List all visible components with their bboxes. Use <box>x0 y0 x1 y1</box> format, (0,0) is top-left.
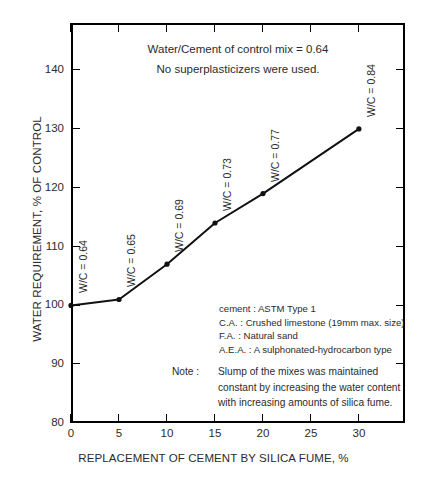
data-point-30 <box>356 126 361 131</box>
data-series-line <box>0 0 427 479</box>
x-axis-title: REPLACEMENT OF CEMENT BY SILICA FUME, % <box>0 452 427 464</box>
data-point-15 <box>212 220 217 225</box>
point-label-0: W/C = 0.64 <box>78 241 89 294</box>
point-label-10: W/C = 0.69 <box>174 199 185 252</box>
data-point-10 <box>164 262 169 267</box>
point-label-5: W/C = 0.65 <box>126 235 137 288</box>
data-point-5 <box>116 297 121 302</box>
point-label-15: W/C = 0.73 <box>222 158 233 211</box>
series-polyline <box>71 129 359 306</box>
point-label-30: W/C = 0.84 <box>366 64 377 117</box>
y-axis-title: WATER REQUIREMENT, % OF CONTROL <box>31 79 43 379</box>
data-point-20 <box>260 191 265 196</box>
data-point-0 <box>68 303 73 308</box>
point-label-20: W/C = 0.77 <box>270 129 281 182</box>
chart-figure: 8090100110120130140051015202530 Water/Ce… <box>0 0 427 479</box>
